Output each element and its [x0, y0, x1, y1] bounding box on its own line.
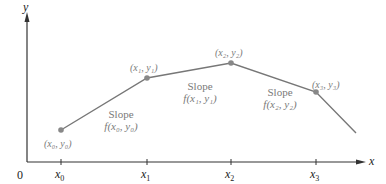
slope-expression: f(x₂, y₂) — [250, 98, 310, 110]
point-p1 — [144, 75, 150, 81]
point-p3 — [313, 89, 319, 95]
tick-label-x0: x0 — [55, 167, 64, 183]
y-axis-label: y — [23, 0, 28, 15]
origin-label: 0 — [17, 168, 23, 183]
slope-expression: f(x₀, y₀) — [96, 120, 146, 132]
slope-label-0: Slope f(x₀, y₀) — [96, 108, 146, 132]
point-label-p1: (x₁, y₁) — [130, 62, 158, 73]
tick-label-x1: x1 — [141, 167, 150, 183]
tick-label-x2: x2 — [225, 167, 234, 183]
point-label-p2: (x₂, y₂) — [215, 47, 243, 58]
point-label-p0: (x₀, y₀) — [44, 138, 72, 149]
point-p2 — [228, 60, 234, 66]
x-axis-arrow-icon — [356, 160, 366, 165]
x-axis-label: x — [369, 154, 374, 169]
slope-expression: f(x₁, y₁) — [170, 92, 230, 104]
slope-word: Slope — [250, 86, 310, 98]
slope-word: Slope — [96, 108, 146, 120]
slope-label-1: Slope f(x₁, y₁) — [170, 80, 230, 104]
point-label-p3: (x₃, y₃) — [312, 79, 340, 90]
slope-label-2: Slope f(x₂, y₂) — [250, 86, 310, 110]
slope-word: Slope — [170, 80, 230, 92]
point-p0 — [58, 127, 64, 133]
tick-label-x3: x3 — [310, 167, 319, 183]
